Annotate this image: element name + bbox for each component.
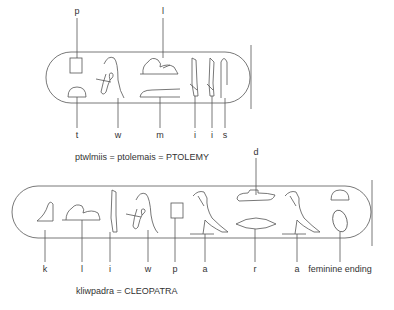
label-ptolemy-s: s [223, 131, 228, 140]
cartouche-ptolemy-outline [46, 52, 250, 103]
glyph-t-loaf [331, 190, 349, 200]
label-ptolemy-top-l: l [162, 7, 164, 16]
glyph-i-reed-2 [207, 58, 214, 96]
glyph-w-coil [104, 57, 124, 98]
glyph-k-hill [37, 202, 53, 221]
caption-cleopatra: kliwpadra = CLEOPATRA [76, 287, 177, 296]
cartouche-cleopatra [12, 158, 372, 262]
label-ptolemy-w: w [115, 131, 122, 140]
glyph-egg [330, 209, 349, 234]
glyph-i-reed-1 [190, 58, 198, 96]
label-cleopatra-k: k [43, 265, 48, 274]
label-ptolemy-m: m [156, 131, 164, 140]
glyph-p-square [70, 58, 82, 73]
glyph-i-reed [111, 190, 117, 232]
glyph-r-mouth [236, 218, 276, 229]
caption-ptolemy: ptwlmiis = ptolemais = PTOLEMY [75, 153, 209, 162]
glyph-t-loaf [68, 87, 86, 97]
glyph-w-loop [96, 73, 113, 94]
glyph-a-vulture-1 [190, 192, 228, 235]
label-cleopatra-a1: a [202, 265, 207, 274]
glyph-w-loop [126, 209, 145, 229]
label-cleopatra-r: r [254, 265, 257, 274]
label-cleopatra-top-d: d [253, 148, 258, 157]
glyph-l-lion [140, 58, 178, 74]
label-cleopatra-w: w [145, 265, 152, 274]
glyph-a-vulture-2 [282, 192, 320, 235]
label-ptolemy-i1: i [194, 131, 196, 140]
label-cleopatra-l: l [81, 265, 83, 274]
label-cleopatra-i: i [109, 265, 111, 274]
glyph-l-lion [62, 205, 100, 220]
label-cleopatra-p: p [172, 265, 177, 274]
cartouche-ptolemy [46, 18, 251, 128]
label-cleopatra-a2: a [294, 265, 299, 274]
glyph-s-cloth [221, 59, 227, 99]
glyph-p-square [171, 203, 183, 218]
label-ptolemy-i2: i [211, 131, 213, 140]
label-cleopatra-feminine-ending: feminine ending [308, 265, 372, 274]
glyph-w-coil [136, 193, 158, 233]
glyph-m-water [140, 89, 180, 97]
label-ptolemy-top-p: p [74, 7, 79, 16]
label-ptolemy-t: t [76, 131, 79, 140]
